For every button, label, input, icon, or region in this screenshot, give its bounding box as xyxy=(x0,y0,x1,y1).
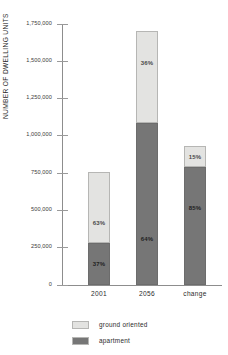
x-axis-label-2056: 2056 xyxy=(122,290,172,297)
legend-item-ground-oriented: ground oriented xyxy=(72,320,212,329)
legend-swatch-ground-oriented xyxy=(72,321,89,329)
y-tick: 500,000 xyxy=(57,210,68,211)
bar-2001[interactable]: 63%37% xyxy=(88,172,110,285)
y-tick-label: 1,750,000 xyxy=(26,20,52,26)
plot-area: 1,750,0001,500,0001,250,0001,000,000750,… xyxy=(62,24,222,286)
bar-segment-apartment[interactable]: 85% xyxy=(184,167,206,285)
y-tick-label: 0 xyxy=(49,281,52,287)
y-tick: 1,250,000 xyxy=(57,98,68,99)
segment-percent-label: 64% xyxy=(141,236,154,242)
legend-swatch-apartment xyxy=(72,337,89,345)
x-axis-label-2001: 2001 xyxy=(74,290,124,297)
y-tick-label: 1,250,000 xyxy=(26,94,52,100)
y-tick: 1,500,000 xyxy=(57,61,68,62)
bar-segment-ground-oriented[interactable]: 36% xyxy=(136,31,158,122)
x-axis-label-change: change xyxy=(170,290,220,297)
bar-segment-apartment[interactable]: 37% xyxy=(88,243,110,285)
y-tick-label: 1,500,000 xyxy=(26,57,52,63)
y-tick-label: 1,000,000 xyxy=(26,131,52,137)
y-tick: 1,000,000 xyxy=(57,135,68,136)
y-tick-label: 250,000 xyxy=(31,243,52,249)
legend: ground oriented apartment xyxy=(72,320,212,352)
segment-percent-label: 85% xyxy=(189,205,202,211)
segment-percent-label: 37% xyxy=(93,261,106,267)
legend-item-apartment: apartment xyxy=(72,336,212,345)
dwelling-units-stacked-bar-chart: NUMBER OF DWELLING UNITS 1,750,0001,500,… xyxy=(0,0,228,355)
bar-segment-ground-oriented[interactable]: 15% xyxy=(184,146,206,167)
segment-percent-label: 36% xyxy=(141,60,154,66)
bar-segment-apartment[interactable]: 64% xyxy=(136,123,158,285)
legend-label-ground-oriented: ground oriented xyxy=(99,321,148,328)
bar-change[interactable]: 15%85% xyxy=(184,146,206,285)
x-axis-line xyxy=(62,285,222,286)
y-tick: 0 xyxy=(57,285,68,286)
legend-label-apartment: apartment xyxy=(99,337,130,344)
segment-percent-label: 63% xyxy=(93,220,106,226)
bar-segment-ground-oriented[interactable]: 63% xyxy=(88,172,110,243)
bar-2056[interactable]: 36%64% xyxy=(136,31,158,285)
y-tick: 1,750,000 xyxy=(57,24,68,25)
segment-percent-label: 15% xyxy=(189,154,202,160)
y-tick-label: 750,000 xyxy=(31,169,52,175)
y-tick-label: 500,000 xyxy=(31,206,52,212)
y-tick: 250,000 xyxy=(57,247,68,248)
y-tick: 750,000 xyxy=(57,173,68,174)
y-axis-title: NUMBER OF DWELLING UNITS xyxy=(2,0,9,119)
